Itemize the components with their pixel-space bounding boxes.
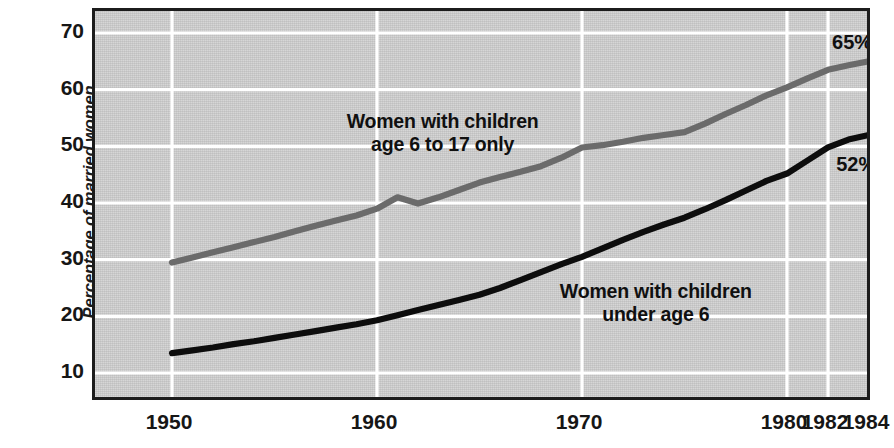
series-label-line-1: Women with children (560, 280, 752, 302)
series-label-line-2: under age 6 (602, 303, 709, 325)
plot-area: Women with childrenage 6 to 17 onlyWomen… (92, 8, 870, 400)
plot-annotations: Women with childrenage 6 to 17 onlyWomen… (95, 11, 870, 400)
end-value-label-age-6-to-17: 65% (832, 32, 870, 52)
x-axis-tick-label: 1984 (806, 410, 894, 433)
series-label-age-6-to-17: Women with childrenage 6 to 17 only (333, 110, 553, 156)
series-label-line-2: age 6 to 17 only (371, 133, 514, 155)
series-label-under-age-6: Women with childrenunder age 6 (546, 280, 766, 326)
x-axis-tick-label: 1970 (519, 410, 639, 433)
x-axis-tick-label: 1960 (314, 410, 434, 433)
end-value-label-under-age-6: 52% (836, 154, 870, 174)
x-axis-tick-label: 1950 (109, 410, 229, 433)
series-label-line-1: Women with children (347, 110, 539, 132)
